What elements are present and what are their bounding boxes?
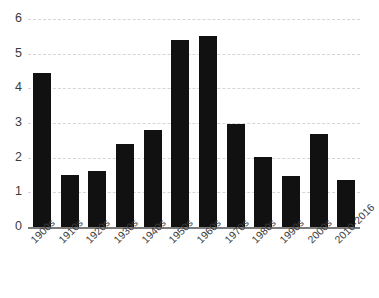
bars-group <box>28 19 360 227</box>
y-tick-label: 1 <box>0 185 22 198</box>
x-axis: 1900s1910s1920s1930s1940s1950s1960s1970s… <box>0 227 379 298</box>
bar[interactable] <box>144 130 162 227</box>
y-tick-label: 5 <box>0 47 22 60</box>
y-tick-label: 2 <box>0 151 22 164</box>
bar[interactable] <box>171 40 189 227</box>
y-tick-label: 6 <box>0 12 22 25</box>
bar[interactable] <box>227 124 245 227</box>
y-tick-label: 4 <box>0 81 22 94</box>
y-tick-label: 3 <box>0 116 22 129</box>
bar-chart: 0123456 1900s1910s1920s1930s1940s1950s19… <box>0 0 379 298</box>
bar[interactable] <box>310 134 328 227</box>
bar[interactable] <box>199 36 217 227</box>
bar[interactable] <box>116 144 134 227</box>
bar[interactable] <box>33 73 51 227</box>
